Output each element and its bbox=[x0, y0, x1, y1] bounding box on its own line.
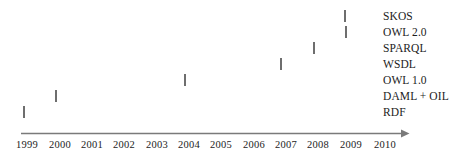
x-tick-2004: 2004 bbox=[178, 139, 200, 151]
x-tick-2003: 2003 bbox=[146, 139, 168, 151]
x-tick-2007: 2007 bbox=[275, 139, 297, 151]
semantic-web-technology-timeline-chart: SKOS OWL 2.0 SPARQL WSDL OWL 1.0 DAML + … bbox=[0, 0, 465, 162]
x-axis-tick-labels: 1999 2000 2001 2002 2003 2004 2005 2006 … bbox=[0, 0, 465, 162]
x-tick-2005: 2005 bbox=[210, 139, 232, 151]
x-tick-1999: 1999 bbox=[16, 139, 38, 151]
x-tick-2008: 2008 bbox=[307, 139, 329, 151]
x-tick-2009: 2009 bbox=[340, 139, 362, 151]
x-tick-2000: 2000 bbox=[49, 139, 71, 151]
x-tick-2006: 2006 bbox=[243, 139, 265, 151]
x-tick-2002: 2002 bbox=[113, 139, 135, 151]
x-tick-2010: 2010 bbox=[374, 139, 396, 151]
x-tick-2001: 2001 bbox=[81, 139, 103, 151]
